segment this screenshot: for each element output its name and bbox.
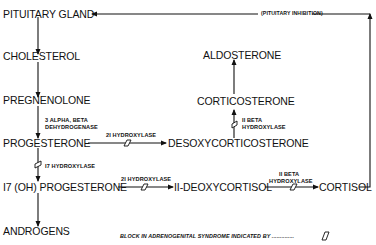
node-cholesterol: CHOLESTEROL	[3, 51, 80, 62]
enzyme-label-11-beta-a-2: HYDROXYLASE	[242, 124, 286, 130]
node-pituitary-gland: PITUITARY GLAND	[3, 9, 94, 20]
node-pregnenolone: PREGNENOLONE	[3, 95, 91, 106]
node-corticosterone: CORTICOSTERONE	[197, 96, 295, 107]
enzyme-label-17-hydroxylase: I7 HYDROXYLASE	[45, 163, 95, 169]
node-17oh-progesterone: I7 (OH) PROGESTERONE	[3, 182, 127, 193]
legend-text: BLOCK IN ADRENOGENITAL SYNDROME INDICATE…	[120, 233, 294, 239]
node-11-deoxycortisol: II-DEOXYCORTISOL	[174, 182, 272, 193]
enzyme-label-11-beta-b-1: II BETA	[279, 171, 299, 177]
enzyme-label-11-beta-b-2: HYDROXYLASE	[269, 178, 313, 184]
enzyme-label-dehydrogenase-1: 3 ALPHA, BETA	[45, 117, 88, 123]
feedback-label: (PITUITARY INHIBITION)	[261, 11, 323, 17]
enzyme-label-21-hydroxylase-a: 2I HYDROXYLASE	[106, 132, 156, 138]
node-desoxycorticosterone: DESOXYCORTICOSTERONE	[168, 138, 309, 149]
enzyme-label-dehydrogenase-2: DEHYDROGENASE	[45, 124, 98, 130]
node-cortisol: CORTISOL	[319, 182, 372, 193]
node-androgens: ANDROGENS	[3, 226, 70, 237]
enzyme-label-11-beta-a-1: II BETA	[242, 117, 262, 123]
node-aldosterone: ALDOSTERONE	[203, 50, 281, 61]
node-progesterone: PROGESTERONE	[3, 138, 90, 149]
enzyme-label-21-hydroxylase-b: 2I HYDROXYLASE	[121, 176, 171, 182]
